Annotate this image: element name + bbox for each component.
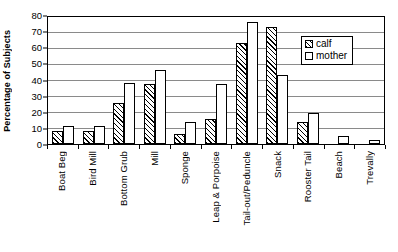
- bar-group: [231, 17, 262, 144]
- bar-calf: [174, 134, 185, 144]
- x-axis-label-tail-out-peduncle: Tail-out/Peduncle: [231, 151, 262, 246]
- x-axis-label-rooster-tail: Rooster Tail: [293, 151, 324, 246]
- x-axis-label-bottom-grub: Bottom Grub: [108, 151, 139, 246]
- bar-mother: [338, 136, 349, 144]
- bar-mother: [277, 75, 288, 144]
- y-axis-tick-20: 20: [31, 108, 42, 118]
- x-axis-tickmark: [262, 145, 263, 149]
- x-axis-tickmark: [78, 145, 79, 149]
- bar-group: [140, 17, 171, 144]
- x-axis-tickmark: [354, 145, 355, 149]
- x-axis-label-sponge: Sponge: [170, 151, 201, 246]
- bar-mother: [124, 83, 135, 144]
- x-axis-tickmark: [139, 145, 140, 149]
- y-axis-title-text: Percentage of Subjects: [2, 30, 12, 132]
- x-axis-label-text: Mill: [150, 151, 160, 166]
- bar-group: [353, 17, 384, 144]
- bar-group: [109, 17, 140, 144]
- x-axis-tickmark: [170, 145, 171, 149]
- x-axis-category-labels: Boat BegBird MillBottom GrubMillSpongeLe…: [47, 151, 385, 246]
- x-axis-label-text: Tail-out/Peduncle: [242, 151, 252, 226]
- x-axis-label-text: Snack: [273, 151, 283, 178]
- x-axis-label-bird-mill: Bird Mill: [78, 151, 109, 246]
- bar-chart-figure: Percentage of Subjects 01020304050607080…: [0, 0, 398, 252]
- bar-calf: [297, 122, 308, 144]
- bar-group: [170, 17, 201, 144]
- y-axis-tick-0: 0: [37, 140, 42, 150]
- x-axis-tickmark: [47, 145, 48, 149]
- x-axis-tickmark: [324, 145, 325, 149]
- bar-group: [48, 17, 79, 144]
- legend-entry-mother: mother: [305, 51, 347, 61]
- bar-mother: [247, 22, 258, 144]
- bar-calf: [205, 119, 216, 144]
- bar-calf: [52, 131, 63, 144]
- legend-swatch-calf-icon: [305, 40, 313, 48]
- y-axis-tick-70: 70: [31, 27, 42, 37]
- y-axis-tick-60: 60: [31, 44, 42, 54]
- bar-mother: [155, 70, 166, 144]
- x-axis-tickmark: [108, 145, 109, 149]
- x-axis-label-mill: Mill: [139, 151, 170, 246]
- x-axis-tickmark: [231, 145, 232, 149]
- y-axis-tick-10: 10: [31, 124, 42, 134]
- chart-legend: calf mother: [301, 36, 353, 65]
- bar-calf: [113, 103, 124, 144]
- x-axis-label-boat-beg: Boat Beg: [47, 151, 78, 246]
- legend-label-mother: mother: [316, 51, 347, 61]
- bar-group: [201, 17, 232, 144]
- x-axis-label-text: Sponge: [180, 151, 190, 184]
- bar-calf: [144, 84, 155, 144]
- bar-calf: [236, 43, 247, 144]
- legend-entry-calf: calf: [305, 39, 347, 49]
- x-axis-tickmark: [201, 145, 202, 149]
- x-axis-label-trevally: Trevally: [354, 151, 385, 246]
- x-axis-label-text: Rooster Tail: [303, 151, 313, 202]
- y-axis-tick-30: 30: [31, 92, 42, 102]
- x-axis-label-text: Leap & Porpoise: [211, 151, 221, 223]
- bar-mother: [216, 84, 227, 144]
- bar-mother: [369, 140, 380, 144]
- x-axis-label-text: Beach: [334, 151, 344, 178]
- bar-mother: [308, 113, 319, 144]
- x-axis-label-text: Trevally: [365, 151, 375, 185]
- bar-calf: [83, 131, 94, 144]
- x-axis-label-text: Bird Mill: [88, 151, 98, 186]
- y-axis-tick-labels: 01020304050607080: [18, 16, 47, 145]
- x-axis-tick-marks: [47, 145, 385, 149]
- y-axis-tick-50: 50: [31, 60, 42, 70]
- x-axis-label-beach: Beach: [324, 151, 355, 246]
- bar-group: [79, 17, 110, 144]
- bar-calf: [266, 27, 277, 144]
- y-axis-title: Percentage of Subjects: [0, 16, 14, 146]
- x-axis-label-text: Bottom Grub: [119, 151, 129, 206]
- x-axis-tickmark: [293, 145, 294, 149]
- y-axis-tick-80: 80: [31, 11, 42, 21]
- legend-label-calf: calf: [316, 39, 332, 49]
- x-axis-label-snack: Snack: [262, 151, 293, 246]
- bar-mother: [63, 126, 74, 144]
- x-axis-label-leap-porpoise: Leap & Porpoise: [201, 151, 232, 246]
- bar-mother: [94, 126, 105, 144]
- x-axis-label-text: Boat Beg: [57, 151, 67, 191]
- y-axis-tick-40: 40: [31, 76, 42, 86]
- bar-group: [262, 17, 293, 144]
- legend-swatch-mother-icon: [305, 52, 313, 60]
- bar-mother: [185, 122, 196, 144]
- x-axis-tickmark: [385, 145, 386, 149]
